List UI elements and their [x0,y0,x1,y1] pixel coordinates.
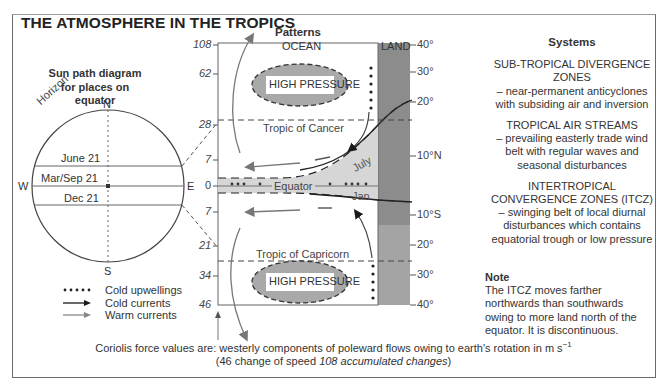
land-label: LAND [381,40,410,52]
compass-north: N [103,98,111,110]
latitude-tick: 30° [417,65,434,77]
compass-west: W [18,180,28,192]
systems-panel: Systems SUB-TROPICAL DIVERGENCE ZONES – … [486,36,658,254]
system-title: INTERTROPICAL CONVERGENCE ZONES (ITCZ) [486,180,658,206]
coriolis-tick: 21 [199,239,211,251]
tropic-capricorn-label: Tropic of Capricorn [256,248,349,260]
coriolis-tick: 7 [205,205,211,217]
system-title: TROPICAL AIR STREAMS [486,119,658,132]
latitude-axis-ticks [410,45,416,305]
coriolis-footnote-line1: Coriolis force values are: westerly comp… [0,340,667,354]
note-heading: Note [485,271,653,284]
latitude-tick: 30° [417,268,434,280]
coriolis-tick: 62 [199,67,211,79]
system-block-itcz: INTERTROPICAL CONVERGENCE ZONES (ITCZ) –… [486,180,658,246]
ocean-label: OCEAN [282,28,321,40]
footnote-text: ) [448,355,452,367]
coriolis-tick: 0 [205,179,211,191]
trade-wind-north-dash [315,157,330,160]
latitude-tick: 20° [417,95,434,107]
note-text: The ITCZ moves farther northwards than s… [485,284,653,337]
coriolis-tick: 46 [199,298,211,310]
equator-label: Equator [272,180,315,192]
latitude-tick: 40° [417,298,434,310]
legend-label-cold-upwellings: Cold upwellings [105,284,182,296]
path-label-june: June 21 [61,152,100,164]
land-strip-south [378,225,410,305]
cold-current-south [356,212,372,258]
high-pressure-north-label: HIGH PRESSURE [269,78,360,90]
legend-label-cold-currents: Cold currents [105,297,170,309]
warm-current-south [231,228,246,338]
legend-label-warm-currents: Warm currents [105,309,177,321]
observer-dot [106,184,110,188]
path-label-dec: Dec 21 [64,192,99,204]
trade-wind-north-arrow [248,163,300,167]
systems-heading: Systems [486,36,658,49]
legend-symbols [63,289,91,318]
axis-pointer-head [215,311,221,318]
legend-dots-icon [64,289,91,292]
system-block-divergence: SUB-TROPICAL DIVERGENCE ZONES – near-per… [486,58,658,111]
system-desc: – prevailing easterly trade wind belt wi… [486,132,658,172]
compass-south: S [104,265,111,277]
coriolis-tick: 28 [199,118,211,130]
path-label-equinox: Mar/Sep 21 [41,172,98,184]
compass-east: E [187,180,194,192]
footnote-text: (46 change of speed [216,355,319,367]
footnote-italic: 108 accumulated changes [319,355,447,367]
jan-label: Jan [352,190,370,202]
system-block-air-streams: TROPICAL AIR STREAMS – prevailing easter… [486,119,658,172]
upwelling-dots-north [369,66,372,109]
tropic-cancer-label: Tropic of Cancer [263,122,344,134]
coriolis-tick: 7 [205,153,211,165]
high-pressure-south-label: HIGH PRESSURE [269,275,360,287]
footnote-text: Coriolis force values are: westerly comp… [95,342,562,354]
system-desc: – near-permanent anticyclones with subsi… [486,85,658,111]
coriolis-tick: 34 [199,269,211,281]
ocean-label-text: OCEAN [282,40,321,52]
system-title: SUB-TROPICAL DIVERGENCE ZONES [486,58,658,84]
latitude-tick: 20° [417,238,434,250]
land-strip-north [378,43,410,225]
trade-wind-south-arrow [248,210,300,212]
latitude-tick: 40° [417,38,434,50]
upwelling-dots-south [371,264,374,299]
footnote-superscript: −1 [563,340,572,349]
coriolis-tick: 108 [193,38,211,50]
note-panel: Note The ITCZ moves farther northwards t… [485,271,653,337]
coriolis-axis-ticks [213,45,218,276]
coriolis-footnote-line2: (46 change of speed 108 accumulated chan… [0,355,667,367]
warm-current-north [233,36,252,153]
latitude-tick: 10°S [417,208,441,220]
system-desc: – swinging belt of local diurnal disturb… [486,206,658,246]
latitude-tick: 10°N [417,149,442,161]
